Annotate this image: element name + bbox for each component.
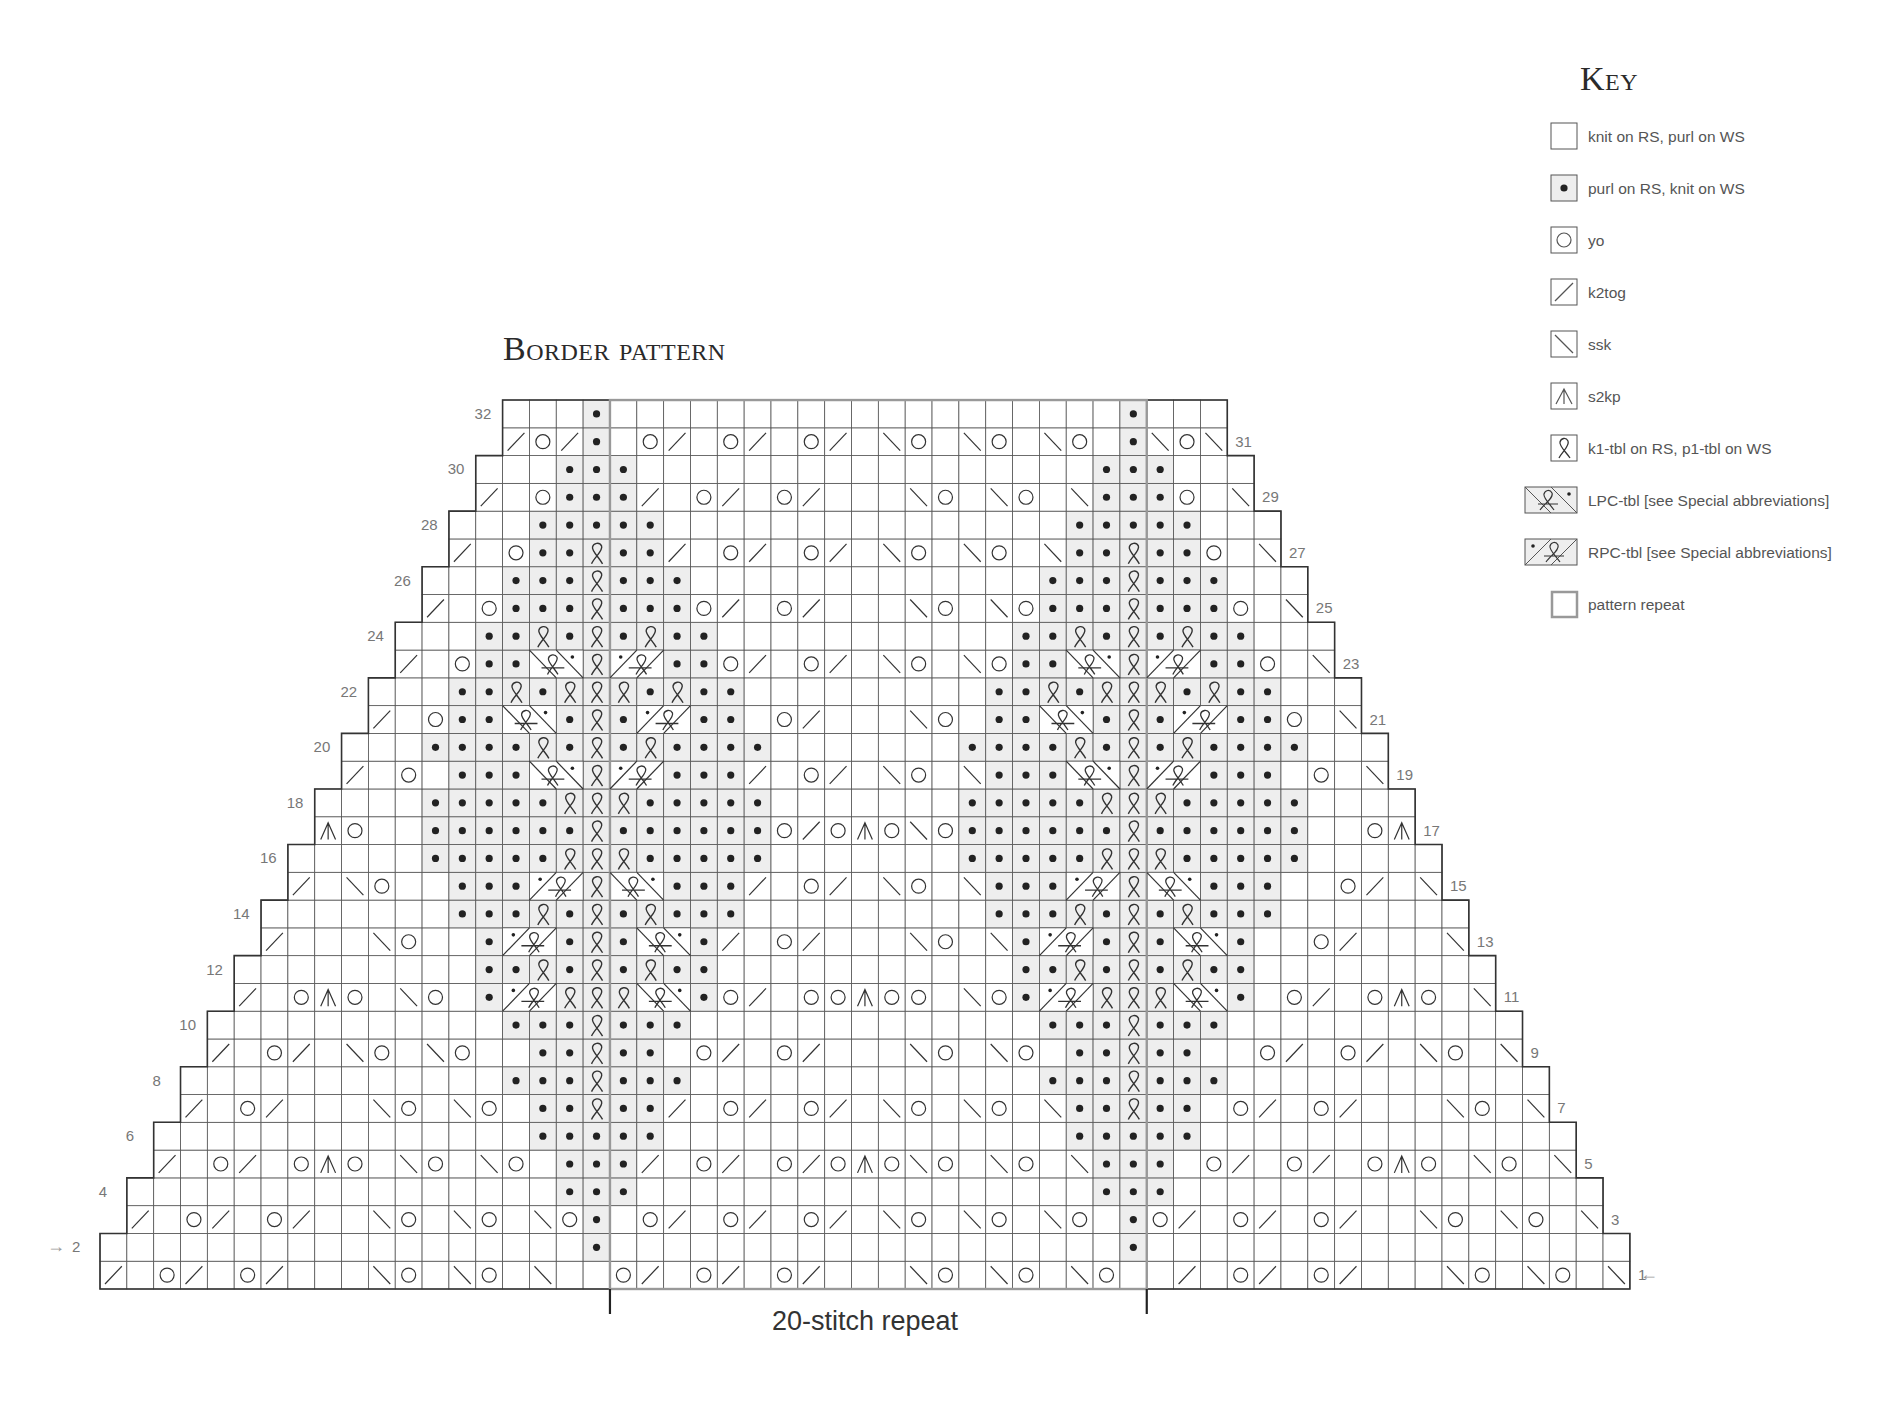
key-label: RPC-tbl [see Special abbreviations] <box>1588 544 1832 562</box>
purl-icon <box>1550 174 1580 204</box>
lpc-tbl-icon <box>1524 486 1580 516</box>
row-number: 29 <box>1262 488 1279 505</box>
key-label: LPC-tbl [see Special abbreviations] <box>1588 492 1829 510</box>
key-label: s2kp <box>1588 388 1621 406</box>
row-number: 13 <box>1477 933 1494 950</box>
row-number: 11 <box>1504 988 1520 1005</box>
row-number: 21 <box>1369 711 1386 728</box>
key-label: k1-tbl on RS, p1-tbl on WS <box>1588 440 1772 458</box>
row-number: 10 <box>179 1016 196 1033</box>
row-number: 8 <box>153 1072 161 1089</box>
row-number: 12 <box>206 961 223 978</box>
k2tog-icon <box>1550 278 1580 308</box>
row-number: 2 <box>72 1238 80 1255</box>
row-number: 20 <box>314 738 331 755</box>
pattern-repeat-icon <box>1550 590 1580 620</box>
key-label: k2tog <box>1588 284 1626 302</box>
row-number: 32 <box>475 405 492 422</box>
repeat-label: 20-stitch repeat <box>772 1306 958 1337</box>
rpc-tbl-icon <box>1524 538 1580 568</box>
row-number: 30 <box>448 460 465 477</box>
key-label: pattern repeat <box>1588 596 1685 614</box>
row-number: 28 <box>421 516 438 533</box>
row-number: 31 <box>1235 433 1252 450</box>
k1-tbl-icon <box>1550 434 1580 464</box>
s2kp-icon <box>1550 382 1580 412</box>
row-number: 9 <box>1531 1044 1539 1061</box>
row-number: 26 <box>394 572 411 589</box>
row-number: 19 <box>1396 766 1413 783</box>
row-number: 14 <box>233 905 250 922</box>
row-number: 15 <box>1450 877 1467 894</box>
row-number: 5 <box>1584 1155 1592 1172</box>
key-label: ssk <box>1588 336 1611 354</box>
row-number: 24 <box>367 627 384 644</box>
row-2-start-arrow: → <box>47 1236 65 1257</box>
row-number: 3 <box>1611 1211 1619 1228</box>
row-1-start-arrow: ← <box>1640 1264 1658 1285</box>
row-number: 6 <box>126 1127 134 1144</box>
row-number: 17 <box>1423 822 1440 839</box>
key-label: yo <box>1588 232 1604 250</box>
knit-icon <box>1550 122 1580 152</box>
ssk-icon <box>1550 330 1580 360</box>
row-number: 7 <box>1557 1099 1565 1116</box>
row-number: 25 <box>1316 599 1333 616</box>
row-number: 16 <box>260 849 277 866</box>
row-number: 4 <box>99 1183 107 1200</box>
row-number: 18 <box>287 794 304 811</box>
knitting-chart <box>0 0 1894 1403</box>
yo-icon <box>1550 226 1580 256</box>
row-number: 23 <box>1343 655 1360 672</box>
key-label: purl on RS, knit on WS <box>1588 180 1745 198</box>
row-number: 27 <box>1289 544 1306 561</box>
row-number: 22 <box>340 683 357 700</box>
key-label: knit on RS, purl on WS <box>1588 128 1745 146</box>
